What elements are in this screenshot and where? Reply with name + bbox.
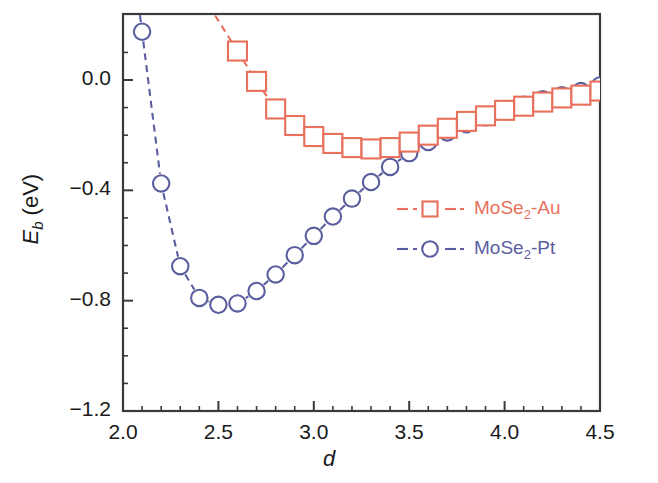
figure-canvas: d Eb (eV) 2.02.53.03.54.04.5 0.0−0.4−0.8…	[0, 0, 658, 483]
data-point-square	[228, 42, 247, 61]
legend-label: MoSe2-Pt	[474, 237, 555, 262]
legend-label: MoSe2-Au	[474, 197, 560, 222]
x-tick-label: 4.5	[565, 420, 635, 444]
data-point-circle	[172, 258, 188, 274]
data-point-square	[381, 138, 400, 157]
data-point-circle	[248, 283, 264, 299]
data-point-square	[438, 119, 457, 138]
x-tick-label: 3.0	[279, 420, 349, 444]
series-markers	[228, 42, 610, 159]
y-axis-label: Eb (eV)	[18, 139, 46, 279]
data-point-square	[419, 126, 438, 145]
legend-label-tail: -Au	[531, 197, 561, 218]
data-point-square	[323, 134, 342, 153]
series-mose2-au	[194, 0, 609, 158]
data-point-square	[571, 86, 590, 105]
data-point-circle	[306, 228, 322, 244]
legend-label-tail: -Pt	[531, 237, 555, 258]
data-point-square	[591, 82, 610, 101]
x-tick-label: 2.5	[183, 420, 253, 444]
data-point-circle	[363, 174, 379, 190]
data-point-circle	[344, 190, 360, 206]
legend-label-main: MoSe	[474, 197, 524, 218]
data-point-square	[476, 106, 495, 125]
series-markers	[134, 24, 608, 313]
data-point-square	[495, 101, 514, 120]
y-tick-label: −0.8	[31, 287, 111, 311]
data-point-square	[342, 138, 361, 157]
y-tick-label: −1.2	[31, 397, 111, 421]
x-axis-label: d	[0, 446, 658, 472]
data-point-circle	[287, 247, 303, 263]
y-tick-label: −0.4	[31, 176, 111, 200]
data-point-square	[533, 93, 552, 112]
legend-label-main: MoSe	[474, 237, 524, 258]
y-axis-label-symbol: E	[18, 230, 43, 245]
data-point-square	[266, 99, 285, 118]
y-axis-label-subscript: b	[29, 222, 46, 230]
legend-label-subscript: 2	[524, 206, 531, 221]
data-point-circle	[229, 295, 245, 311]
data-point-circle	[267, 266, 283, 282]
data-point-circle	[325, 208, 341, 224]
legend-item: MoSe2-Pt	[396, 236, 555, 262]
legend-item: MoSe2-Au	[396, 196, 560, 222]
square-icon	[396, 196, 470, 222]
circle-icon	[396, 236, 470, 262]
data-point-square	[514, 97, 533, 116]
data-point-circle	[382, 159, 398, 175]
data-point-square	[285, 116, 304, 135]
x-tick-label: 4.0	[470, 420, 540, 444]
data-point-circle	[191, 290, 207, 306]
x-tick-label: 3.5	[374, 420, 444, 444]
data-point-square	[552, 88, 571, 107]
data-point-square	[457, 112, 476, 131]
y-tick-label: 0.0	[31, 66, 111, 90]
data-point-circle	[153, 175, 169, 191]
data-point-circle	[210, 297, 226, 313]
data-point-square	[304, 127, 323, 146]
series-line	[194, 0, 304, 131]
data-point-square	[400, 133, 419, 152]
legend-label-subscript: 2	[524, 246, 531, 261]
data-point-square	[247, 72, 266, 91]
data-point-circle	[134, 24, 150, 40]
x-tick-label: 2.0	[88, 420, 158, 444]
data-point-square	[362, 139, 381, 158]
